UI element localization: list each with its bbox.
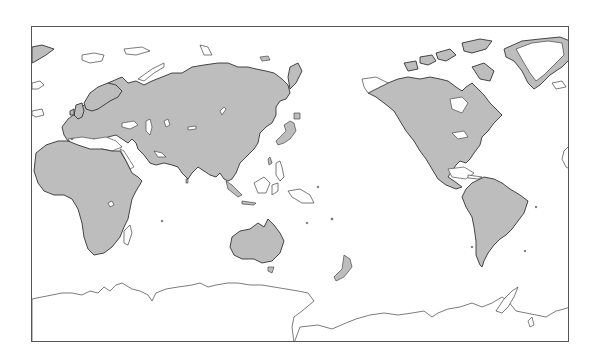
island-dot <box>524 250 526 252</box>
svalbard <box>82 53 104 63</box>
sumatra <box>226 181 242 197</box>
tasmania <box>268 267 274 273</box>
arctic-archipelago-2 <box>436 49 456 61</box>
island-dot <box>317 186 319 188</box>
cuba <box>468 175 482 179</box>
baffin-island <box>472 63 494 81</box>
island-dot <box>71 138 73 140</box>
philippines <box>276 161 284 181</box>
island-dot <box>535 206 537 208</box>
java <box>242 201 256 205</box>
australia <box>230 219 284 263</box>
antarctica-east <box>294 297 569 342</box>
sri-lanka <box>186 179 188 183</box>
sulawesi <box>272 183 278 195</box>
japan <box>276 121 296 145</box>
madagascar <box>124 225 132 245</box>
borneo <box>254 177 270 193</box>
island-dot <box>161 220 163 222</box>
iceland-left-2 <box>32 109 44 117</box>
ireland <box>70 109 74 115</box>
new-guinea <box>288 189 314 203</box>
africa-fragment-right <box>562 145 569 169</box>
island-dot <box>471 246 473 248</box>
new-zealand <box>334 255 352 281</box>
iceland-left <box>32 81 44 89</box>
map-frame <box>31 26 569 342</box>
hokkaido <box>294 113 300 119</box>
franz-josef <box>124 47 150 55</box>
victoria-island <box>404 61 418 71</box>
severnaya-zemlya <box>200 45 212 55</box>
south-america <box>462 177 528 267</box>
new-siberian-islands <box>260 56 270 61</box>
island-dot <box>331 218 333 220</box>
north-america <box>368 77 502 189</box>
lake-balkhash <box>188 126 196 130</box>
antarctica <box>32 283 314 342</box>
iceland <box>552 81 566 89</box>
greenland-fragment-left <box>32 45 54 63</box>
taiwan <box>268 157 272 165</box>
greenland-ice-sheet <box>516 41 564 81</box>
island-dot <box>306 222 308 224</box>
ellesmere <box>462 39 492 53</box>
world-map <box>32 27 569 342</box>
great-britain <box>74 103 84 119</box>
arctic-archipelago-1 <box>420 55 436 65</box>
kamchatka <box>288 63 302 89</box>
